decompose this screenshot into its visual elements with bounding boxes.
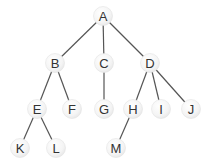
node-label: C: [99, 56, 108, 71]
node-d: D: [141, 54, 160, 73]
node-label: M: [111, 141, 122, 156]
tree-diagram: ABCDEFGHIJKLM: [0, 0, 212, 167]
node-label: I: [159, 102, 163, 117]
node-k: K: [11, 139, 30, 158]
edge-a-b: [55, 16, 103, 63]
node-label: B: [51, 56, 60, 71]
node-a: A: [94, 7, 113, 26]
node-label: G: [99, 102, 109, 117]
node-label: E: [33, 102, 42, 117]
node-label: J: [188, 102, 195, 117]
node-b: B: [46, 54, 65, 73]
node-label: H: [128, 102, 137, 117]
nodes: ABCDEFGHIJKLM: [11, 7, 201, 158]
node-m: M: [107, 139, 126, 158]
node-label: F: [68, 102, 76, 117]
node-f: F: [63, 100, 82, 119]
node-label: L: [52, 141, 59, 156]
node-c: C: [95, 54, 114, 73]
node-i: I: [152, 100, 171, 119]
node-label: K: [16, 141, 25, 156]
node-label: D: [145, 56, 154, 71]
node-g: G: [95, 100, 114, 119]
node-l: L: [47, 139, 66, 158]
node-j: J: [182, 100, 201, 119]
node-label: A: [99, 9, 108, 24]
node-e: E: [28, 100, 47, 119]
node-h: H: [124, 100, 143, 119]
edges: [20, 16, 191, 148]
